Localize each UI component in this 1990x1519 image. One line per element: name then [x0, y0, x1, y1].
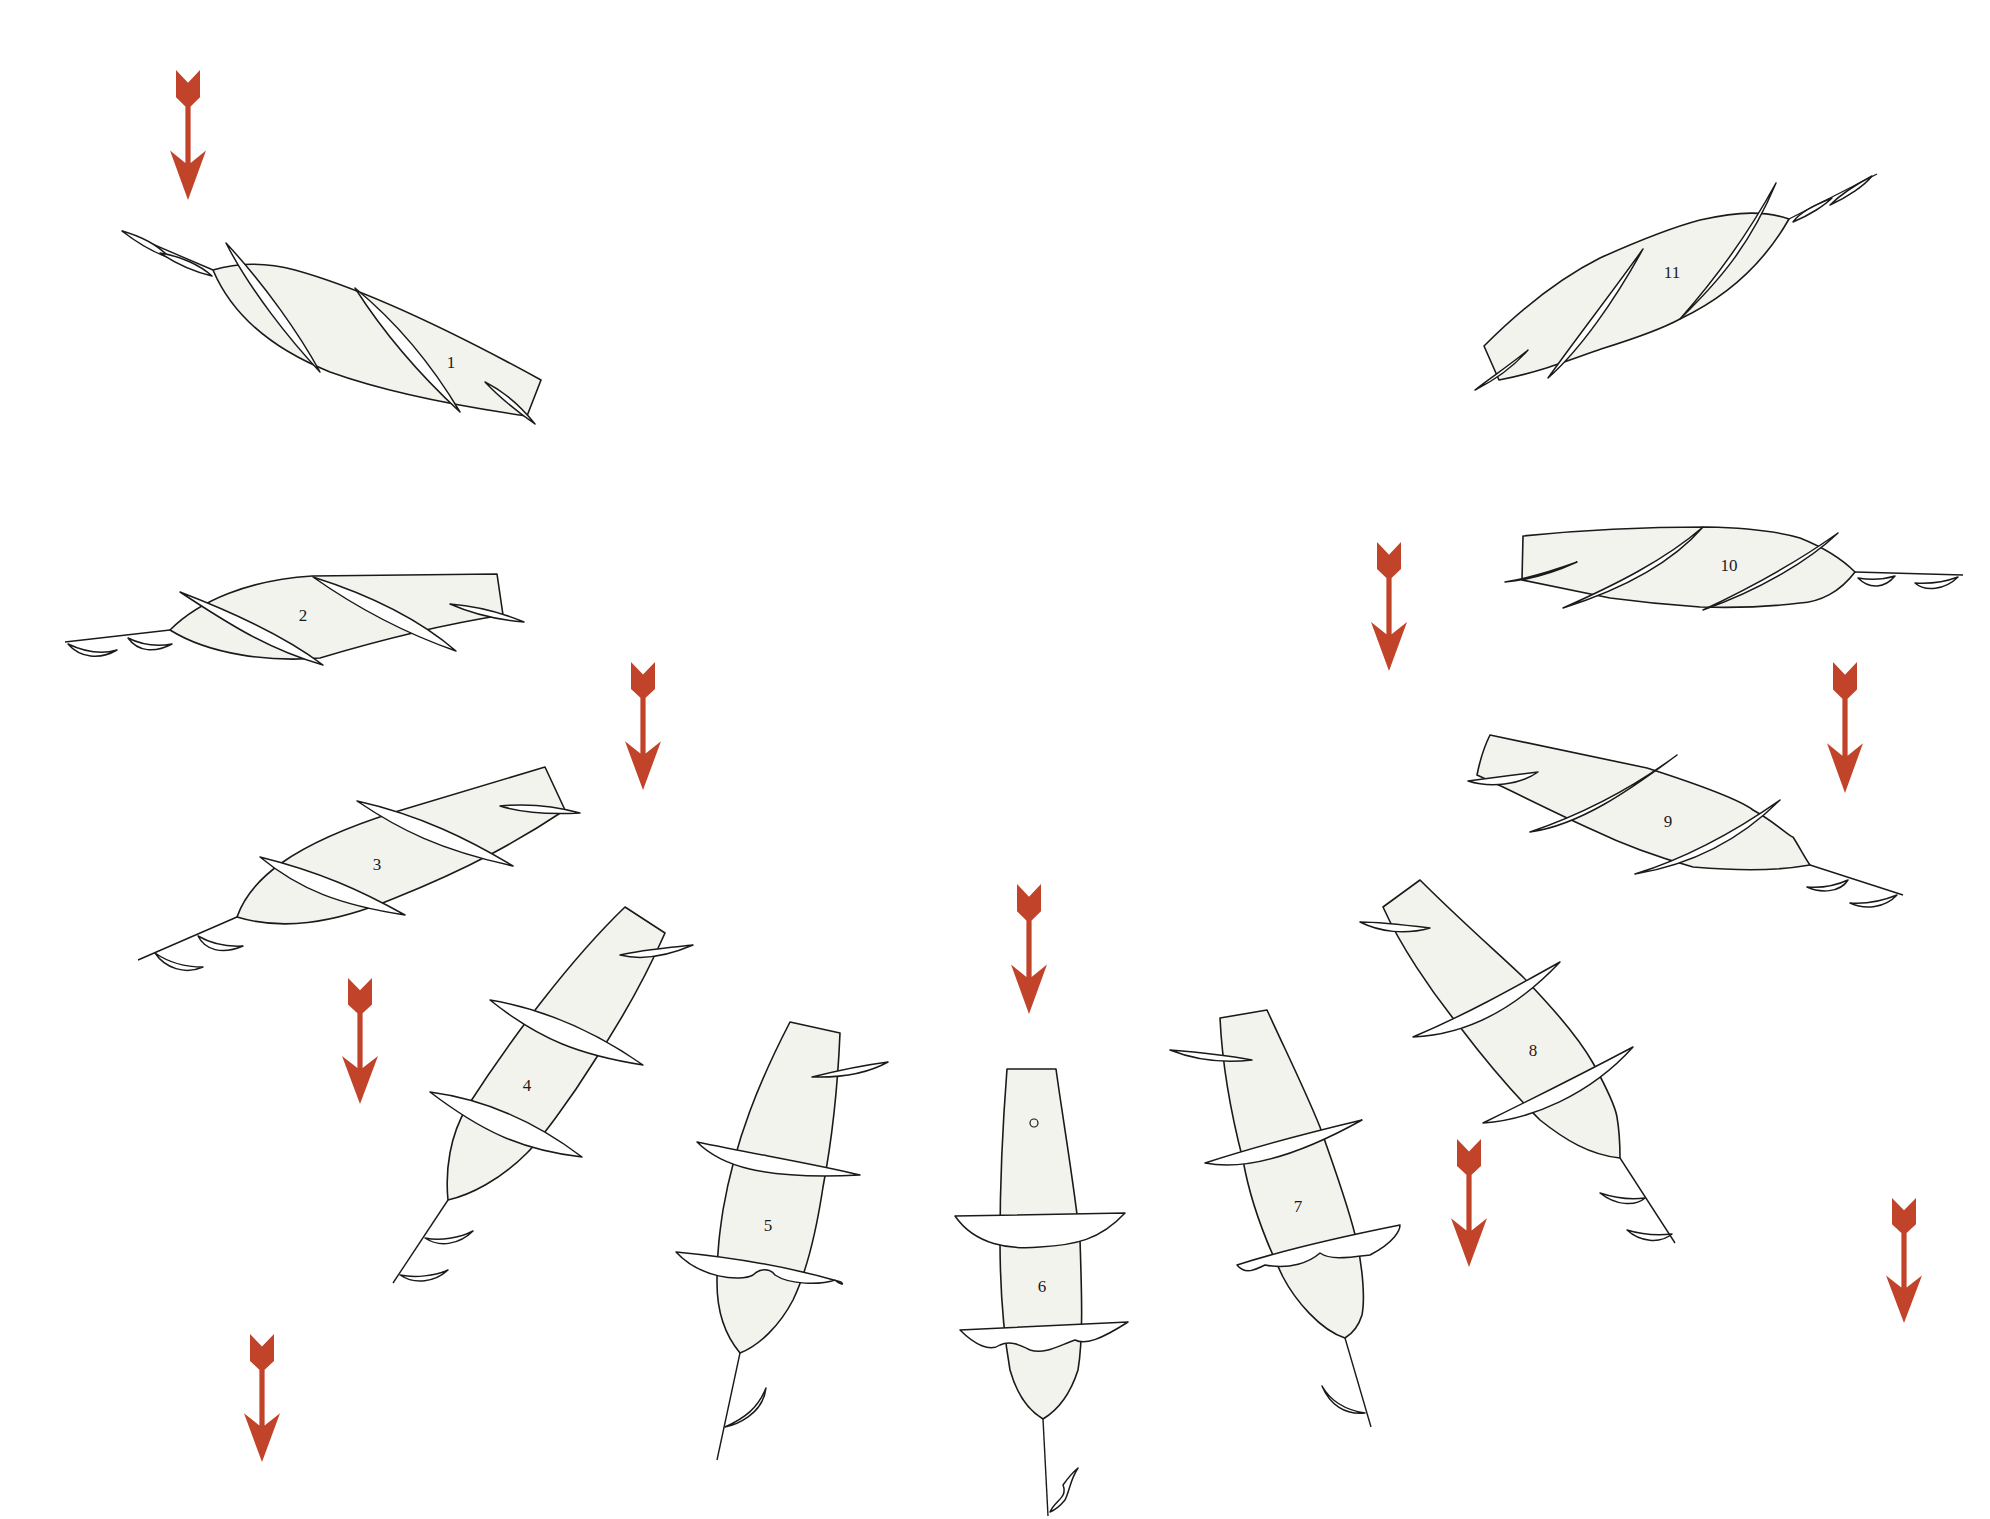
figure-number-label: 9 [1664, 812, 1673, 831]
shaft-line [1043, 1419, 1048, 1516]
tail-fin [1807, 880, 1848, 891]
down-arrow-icon [1827, 662, 1863, 793]
bodies-layer: 1234567891011 [65, 174, 1963, 1516]
body-outline [447, 907, 665, 1200]
figure-number-label: 10 [1721, 556, 1738, 575]
tail-fin [1627, 1230, 1672, 1240]
tail-fin [1322, 1386, 1365, 1413]
crescent-fin [960, 1322, 1128, 1351]
seed-figure-8: 8 [1360, 880, 1675, 1243]
down-arrow-icon [1371, 542, 1407, 671]
tail-fin [1830, 176, 1872, 205]
figure-svg: 1234567891011 [0, 0, 1990, 1519]
shaft-line [138, 917, 237, 960]
seed-figure-2: 2 [65, 574, 524, 665]
shaft-line [717, 1353, 740, 1460]
tail-fin [400, 1270, 448, 1281]
tail-fin [1050, 1468, 1078, 1512]
figure-number-label: 8 [1529, 1041, 1538, 1060]
figure-number-label: 4 [523, 1076, 532, 1095]
tail-fin [160, 253, 212, 276]
down-arrow-icon [1451, 1139, 1487, 1267]
figure-number-label: 3 [373, 855, 382, 874]
seed-figure-1: 1 [122, 231, 541, 424]
seed-figure-5: 5 [676, 1022, 888, 1460]
tail-fin [1850, 895, 1897, 907]
diagram-canvas: 1234567891011 [0, 0, 1990, 1519]
tail-fin [68, 644, 117, 656]
tail-fin [1915, 577, 1958, 589]
shaft-line [65, 630, 170, 642]
tail-fin [1600, 1193, 1645, 1204]
seed-figure-11: 11 [1475, 174, 1877, 390]
down-arrow-icon [625, 662, 661, 790]
figure-number-label: 1 [447, 353, 456, 372]
crescent-fin [955, 1213, 1125, 1248]
down-arrow-icon [1886, 1198, 1922, 1323]
figure-number-label: 11 [1664, 263, 1680, 282]
shaft-line [1855, 572, 1963, 575]
figure-number-label: 2 [299, 606, 308, 625]
body-outline [717, 1022, 840, 1353]
tail-fin [1793, 198, 1832, 222]
seed-figure-3: 3 [138, 767, 580, 970]
figure-number-label: 5 [764, 1216, 773, 1235]
down-arrow-icon [170, 70, 206, 200]
down-arrow-icon [1011, 884, 1047, 1014]
tail-fin [425, 1231, 473, 1244]
tail-fin [128, 638, 172, 650]
body-outline [237, 767, 565, 924]
seed-figure-10: 10 [1505, 527, 1963, 610]
tail-fin [198, 936, 243, 951]
figure-number-label: 6 [1038, 1277, 1047, 1296]
tail-fin [155, 953, 203, 970]
body-outline [1477, 735, 1810, 870]
seed-figure-6: 6 [955, 1069, 1128, 1516]
figure-number-label: 7 [1294, 1197, 1303, 1216]
seed-figure-4: 4 [393, 907, 693, 1283]
tail-fin [1858, 576, 1895, 586]
down-arrow-icon [244, 1334, 280, 1462]
down-arrow-icon [342, 978, 378, 1104]
seed-figure-7: 7 [1170, 1010, 1400, 1427]
